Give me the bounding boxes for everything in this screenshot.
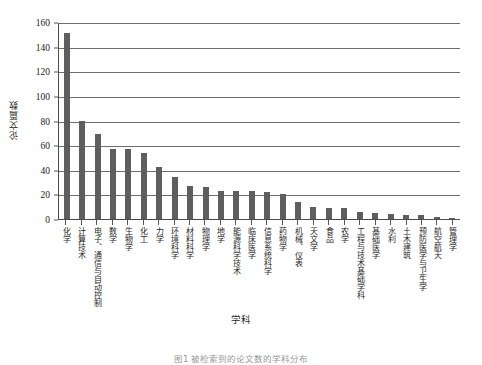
x-category-label: 食品 xyxy=(324,227,333,243)
x-category-label: 土木建筑 xyxy=(402,227,411,259)
bar xyxy=(326,208,332,219)
x-tick-slot xyxy=(73,220,88,226)
bar-slot xyxy=(244,23,259,219)
y-tick-label: 40 xyxy=(41,166,51,175)
y-tick-label: 0 xyxy=(45,216,50,225)
bar-slot xyxy=(105,23,120,219)
x-category-label: 生物学 xyxy=(123,227,132,251)
bar xyxy=(156,167,162,219)
x-tick-mark xyxy=(189,220,190,225)
bar-slot xyxy=(229,23,244,219)
x-tick-mark xyxy=(235,220,236,225)
plot-area xyxy=(58,23,460,220)
x-tick-slot xyxy=(244,220,259,226)
x-tick-mark xyxy=(328,220,329,225)
bar-series xyxy=(59,23,460,219)
bar-slot xyxy=(337,23,352,219)
x-tick-slot xyxy=(151,220,166,226)
bar xyxy=(434,217,440,219)
bar xyxy=(310,207,316,219)
bar-slot xyxy=(290,23,305,219)
bar-slot xyxy=(90,23,105,219)
x-category-label: 能源科学技术 xyxy=(231,227,240,275)
x-tick-slot xyxy=(120,220,135,226)
x-tick-mark xyxy=(390,220,391,225)
x-category-label: 农学 xyxy=(340,227,349,243)
x-tick-slot xyxy=(197,220,212,226)
x-tick-slot xyxy=(336,220,351,226)
bar-chart-figure: 论文篇数 020406080100120140160 化学计算技术电子、通信与自… xyxy=(0,0,482,365)
x-tick-slot xyxy=(290,220,305,226)
x-tick-slot xyxy=(259,220,274,226)
bar xyxy=(264,192,270,219)
bar-slot xyxy=(182,23,197,219)
bar xyxy=(141,153,147,219)
x-category-label: 计算技术 xyxy=(77,227,86,259)
bar xyxy=(388,214,394,219)
x-tick-slot xyxy=(429,220,444,226)
bar-slot xyxy=(167,23,182,219)
x-tick-slot xyxy=(104,220,119,226)
bar xyxy=(172,177,178,219)
bar-slot xyxy=(259,23,274,219)
x-tick-slot xyxy=(321,220,336,226)
x-tick-mark xyxy=(127,220,128,225)
x-axis-tick-marks xyxy=(58,220,460,226)
y-axis-tick-labels: 020406080100120140160 xyxy=(20,0,54,230)
y-tick-label: 120 xyxy=(36,68,50,77)
x-category-label: 工程与技术基础学科 xyxy=(355,227,364,299)
x-axis-title: 学科 xyxy=(0,312,482,326)
x-tick-slot xyxy=(166,220,181,226)
x-category-label: 航空航天 xyxy=(432,227,441,259)
x-category-label: 机械、仪表 xyxy=(293,227,302,267)
x-category-label: 临床医学 xyxy=(247,227,256,259)
bar xyxy=(203,187,209,219)
bar-slot xyxy=(213,23,228,219)
x-tick-mark xyxy=(282,220,283,225)
x-tick-mark xyxy=(452,220,453,225)
bar-slot xyxy=(398,23,413,219)
bar-slot xyxy=(367,23,382,219)
x-category-label: 数学 xyxy=(108,227,117,243)
bar-slot xyxy=(429,23,444,219)
bar xyxy=(449,218,455,219)
x-tick-slot xyxy=(89,220,104,226)
x-tick-mark xyxy=(359,220,360,225)
x-tick-mark xyxy=(313,220,314,225)
bar-slot xyxy=(414,23,429,219)
x-category-label: 力学 xyxy=(154,227,163,243)
bar xyxy=(357,212,363,219)
bar-slot xyxy=(136,23,151,219)
x-tick-mark xyxy=(266,220,267,225)
bar-slot xyxy=(321,23,336,219)
x-category-label: 化学 xyxy=(61,227,70,243)
x-tick-mark xyxy=(436,220,437,225)
bar-slot xyxy=(152,23,167,219)
x-tick-mark xyxy=(421,220,422,225)
y-tick-label: 100 xyxy=(36,92,50,101)
y-tick-label: 160 xyxy=(36,19,50,28)
x-category-label: 化工 xyxy=(139,227,148,243)
x-category-label: 药物学 xyxy=(278,227,287,251)
x-tick-slot xyxy=(414,220,429,226)
x-tick-mark xyxy=(344,220,345,225)
bar-slot xyxy=(59,23,74,219)
x-tick-mark xyxy=(297,220,298,225)
y-tick-label: 20 xyxy=(41,191,51,200)
x-tick-mark xyxy=(204,220,205,225)
x-tick-mark xyxy=(112,220,113,225)
x-category-label: 材料科学 xyxy=(185,227,194,259)
bar xyxy=(341,208,347,219)
x-category-label: 天文学 xyxy=(309,227,318,251)
bar-slot xyxy=(275,23,290,219)
bar-slot xyxy=(445,23,460,219)
bar xyxy=(418,215,424,219)
bar-slot xyxy=(383,23,398,219)
x-category-label: 环境科学 xyxy=(170,227,179,259)
x-category-label: 电子、通信与自动控制 xyxy=(92,227,101,307)
y-axis-title: 论文篇数 xyxy=(6,60,20,180)
x-tick-slot xyxy=(213,220,228,226)
x-tick-slot xyxy=(58,220,73,226)
bar xyxy=(280,194,286,219)
x-tick-slot xyxy=(228,220,243,226)
